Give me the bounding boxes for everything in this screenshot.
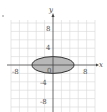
x-axis-label: x	[99, 61, 103, 69]
y-tick-neg8: -8	[40, 98, 47, 106]
graph: x y -8 8 8 4 -4 -8 0	[0, 0, 107, 112]
x-tick-neg8: -8	[12, 68, 19, 76]
x-tick-8: 8	[83, 68, 87, 76]
y-tick-8: 8	[46, 25, 50, 33]
corner-dot-icon	[2, 15, 3, 16]
origin-label: 0	[47, 67, 51, 75]
y-tick-4: 4	[46, 44, 51, 52]
y-axis-label: y	[48, 6, 54, 14]
y-tick-neg4: -4	[40, 79, 47, 87]
